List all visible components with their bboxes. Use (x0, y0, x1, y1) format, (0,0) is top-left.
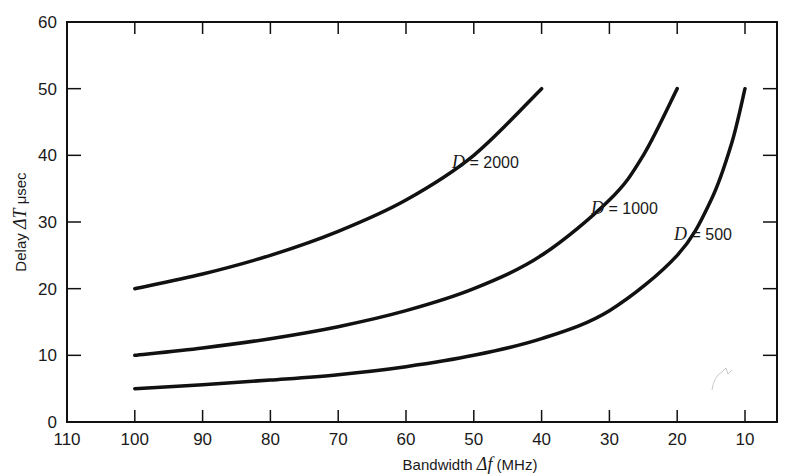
x-tick-label: 80 (261, 430, 280, 449)
x-tick-label: 100 (121, 430, 149, 449)
curve-1000 (135, 89, 677, 356)
x-tick-label: 40 (532, 430, 551, 449)
y-tick-label: 40 (38, 146, 57, 165)
x-tick-label: 30 (600, 430, 619, 449)
y-tick-label: 50 (38, 80, 57, 99)
curve-label-d1000: D = 1000 (590, 198, 658, 218)
axis-ticks (67, 22, 777, 422)
x-axis-tick-labels: 110100908070605040302010 (53, 430, 754, 449)
y-axis-tick-labels: 0102030405060 (38, 13, 57, 432)
curves (135, 89, 745, 389)
curve-2000 (135, 89, 542, 289)
plot-frame (67, 22, 777, 422)
y-tick-label: 10 (38, 346, 57, 365)
curve-label-d2000: D = 2000 (451, 152, 519, 172)
curve-label-d500: D = 500 (673, 224, 732, 244)
y-tick-label: 20 (38, 280, 57, 299)
y-tick-label: 60 (38, 13, 57, 32)
pencil-mark (712, 368, 732, 390)
y-tick-label: 0 (48, 413, 57, 432)
x-tick-label: 70 (329, 430, 348, 449)
x-tick-label: 90 (193, 430, 212, 449)
x-tick-label: 60 (397, 430, 416, 449)
x-tick-label: 50 (464, 430, 483, 449)
x-axis-title: Bandwidth Δf (MHz) (403, 454, 538, 474)
y-axis-title: Delay ΔT μsec (10, 172, 30, 272)
x-tick-label: 110 (53, 430, 80, 449)
x-tick-label: 20 (668, 430, 687, 449)
x-tick-label: 10 (736, 430, 755, 449)
y-tick-label: 30 (38, 213, 57, 232)
delay-vs-bandwidth-chart: 110100908070605040302010 0102030405060 B… (0, 0, 793, 476)
